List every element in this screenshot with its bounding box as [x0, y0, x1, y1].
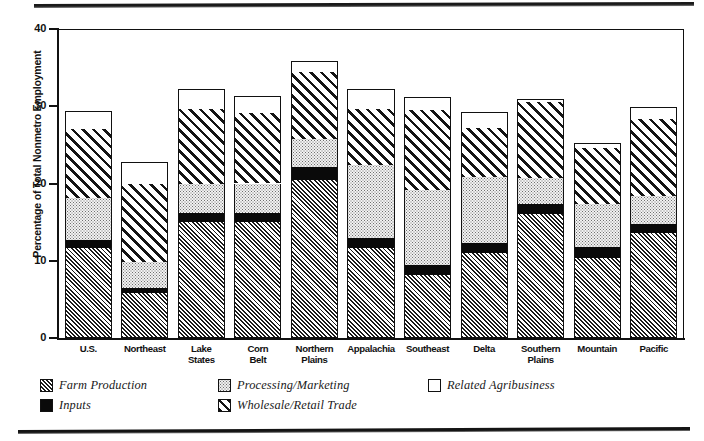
legend-item: Inputs	[40, 398, 91, 413]
x-axis-label-appalachia: Appalachia	[338, 344, 403, 355]
bar-segment	[461, 253, 508, 338]
chart-legend: Farm ProductionInputsProcessing/Marketin…	[40, 378, 680, 420]
legend-swatch-related-icon	[428, 379, 441, 392]
bar-segment	[178, 213, 225, 222]
bar-segment	[404, 110, 451, 190]
bar-segment	[461, 243, 508, 253]
bar-segment	[121, 162, 168, 184]
bar-segment	[517, 178, 564, 204]
x-axis-label-pacific: Pacific	[621, 344, 686, 355]
bar-segment	[517, 204, 564, 214]
bar-segment	[517, 99, 564, 101]
bar-group	[291, 0, 338, 441]
bar-segment	[517, 214, 564, 338]
bar-segment	[404, 275, 451, 338]
bar-segment	[65, 240, 112, 248]
legend-label: Processing/Marketing	[237, 378, 350, 393]
bar-segment	[461, 128, 508, 177]
legend-item: Farm Production	[40, 378, 147, 393]
bar-segment	[291, 61, 338, 73]
bar-segment	[630, 119, 677, 196]
bar-segment	[234, 222, 281, 338]
bar-segment	[574, 247, 621, 258]
bar-segment	[574, 148, 621, 204]
bar-group	[234, 0, 281, 441]
bar-segment	[234, 113, 281, 183]
bar-segment	[121, 288, 168, 293]
bar-segment	[630, 107, 677, 119]
bar-group	[574, 0, 621, 441]
bar-segment	[234, 184, 281, 213]
x-axis-label-southern-plains: SouthernPlains	[508, 344, 573, 365]
bars-container	[0, 0, 704, 441]
legend-label: Farm Production	[59, 378, 147, 393]
legend-swatch-inputs-icon	[40, 399, 53, 412]
legend-item: Processing/Marketing	[218, 378, 350, 393]
x-axis-label-delta: Delta	[452, 344, 517, 355]
bar-segment	[404, 265, 451, 274]
bar-segment	[234, 96, 281, 113]
stacked-bar-chart: 102030400 Percentage of Total Nonmetro E…	[0, 0, 704, 441]
bar-group	[178, 0, 225, 441]
legend-item: Related Agribusiness	[428, 378, 555, 393]
bar-segment	[178, 109, 225, 184]
bar-group	[347, 0, 394, 441]
bar-segment	[65, 111, 112, 130]
bar-segment	[574, 143, 621, 148]
x-axis-label-u-s: U.S.	[56, 344, 121, 355]
bar-segment	[121, 293, 168, 338]
bar-segment	[347, 89, 394, 108]
bar-segment	[517, 102, 564, 178]
bar-segment	[630, 196, 677, 225]
bar-segment	[178, 184, 225, 213]
legend-label: Related Agribusiness	[447, 378, 555, 393]
bar-segment	[291, 139, 338, 167]
legend-item: Wholesale/Retail Trade	[218, 398, 357, 413]
bar-segment	[461, 112, 508, 128]
legend-label: Inputs	[59, 398, 91, 413]
bar-segment	[234, 213, 281, 222]
bar-segment	[404, 190, 451, 266]
bar-segment	[291, 72, 338, 139]
bar-segment	[178, 222, 225, 338]
bar-segment	[65, 198, 112, 240]
bar-segment	[291, 167, 338, 179]
legend-swatch-whole-icon	[218, 399, 231, 412]
bar-group	[461, 0, 508, 441]
x-axis-label-lake-states: LakeStates	[169, 344, 234, 365]
x-axis-label-northeast: Northeast	[112, 344, 177, 355]
legend-swatch-proc-icon	[218, 379, 231, 392]
legend-swatch-farm-icon	[40, 379, 53, 392]
bar-segment	[121, 184, 168, 261]
bar-segment	[404, 97, 451, 110]
x-axis-label-northern-plains: NorthernPlains	[282, 344, 347, 365]
bar-segment	[630, 233, 677, 338]
bar-segment	[65, 248, 112, 338]
bar-segment	[630, 224, 677, 232]
bar-group	[121, 0, 168, 441]
bar-segment	[461, 177, 508, 243]
bar-segment	[574, 258, 621, 338]
bar-segment	[178, 89, 225, 109]
bar-group	[65, 0, 112, 441]
bar-segment	[574, 204, 621, 247]
bar-segment	[347, 248, 394, 338]
bar-segment	[121, 262, 168, 288]
x-axis-label-mountain: Mountain	[565, 344, 630, 355]
x-axis-label-corn-belt: CornBelt	[225, 344, 290, 365]
legend-label: Wholesale/Retail Trade	[237, 398, 357, 413]
bar-segment	[347, 165, 394, 238]
bar-segment	[65, 129, 112, 198]
bar-segment	[291, 180, 338, 338]
bar-segment	[347, 109, 394, 165]
bar-segment	[347, 238, 394, 248]
bar-group	[630, 0, 677, 441]
bar-group	[517, 0, 564, 441]
bar-group	[404, 0, 451, 441]
x-axis-label-southeast: Southeast	[395, 344, 460, 355]
